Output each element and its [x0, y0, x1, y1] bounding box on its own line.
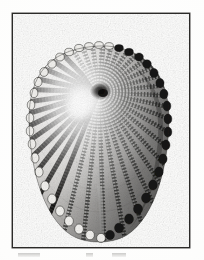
- shell-illustration: [13, 14, 190, 248]
- caption-mark: [112, 253, 126, 257]
- caption-artifacts: [12, 251, 190, 260]
- caption-mark: [18, 253, 40, 257]
- plate-border: [12, 13, 190, 248]
- caption-mark: [86, 253, 93, 257]
- plate-page: [0, 0, 204, 260]
